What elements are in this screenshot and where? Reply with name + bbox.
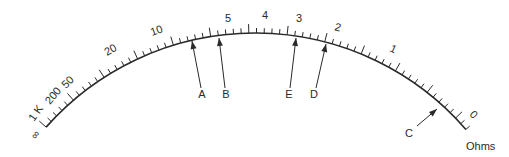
scale-tick <box>150 48 152 53</box>
scale-tick <box>361 46 364 54</box>
scale-tick <box>209 28 210 37</box>
pointer-label: E <box>285 88 292 100</box>
scale-tick <box>64 102 67 106</box>
scale-label: 20 <box>102 41 119 58</box>
scale-tick <box>389 63 391 67</box>
scale-label: 50 <box>59 73 76 90</box>
pointer-a: A <box>191 41 207 100</box>
pointer-c: C <box>405 109 437 139</box>
scale-label: 2 <box>333 20 342 33</box>
scale-label: 10 <box>149 22 165 37</box>
scale-tick <box>171 37 174 46</box>
scale-tick <box>195 35 196 40</box>
scale-label: 200 <box>42 85 63 107</box>
scale-label: 1 K <box>26 102 46 123</box>
scale-tick <box>395 63 400 71</box>
scale-tick <box>48 118 52 121</box>
ohmmeter-scale-diagram: ∞1 K200502010543210 ABEDC Ohms <box>0 0 509 157</box>
scale-tick <box>317 35 318 40</box>
scale-tick <box>382 59 384 64</box>
scale-tick <box>287 26 288 35</box>
scale-tick <box>68 93 74 100</box>
scale-tick <box>39 121 46 127</box>
scale-tick <box>122 61 124 65</box>
pointer-b: B <box>217 38 230 100</box>
scale-tick <box>115 65 118 69</box>
scale-tick <box>445 104 448 108</box>
scale-tick <box>456 112 462 118</box>
scale-tick <box>427 85 433 92</box>
scale-tick <box>332 39 333 44</box>
scale-tick <box>108 69 111 73</box>
scale-tick <box>310 34 311 39</box>
scale-tick <box>433 93 436 97</box>
scale-tick <box>82 87 85 91</box>
scale-label: 4 <box>262 9 268 21</box>
pointer-label: A <box>198 88 206 100</box>
scale-tick <box>95 77 98 81</box>
scale-tick <box>375 56 377 61</box>
scale-tick <box>218 31 219 36</box>
scale-label: 3 <box>296 12 302 24</box>
scale-tick <box>53 112 57 116</box>
scale-tick <box>421 84 424 88</box>
pointer-arrows: ABEDC <box>191 38 437 139</box>
scale-labels: ∞1 K200502010543210 <box>26 9 481 141</box>
scale-tick <box>187 36 188 41</box>
scale-tick <box>354 47 356 52</box>
scale-tick <box>347 44 349 49</box>
scale-tick <box>461 120 465 123</box>
scale-tick <box>202 33 203 38</box>
scale-tick <box>76 91 79 95</box>
scale-tick <box>466 126 470 129</box>
arrowhead-icon <box>292 38 298 46</box>
pointer-label: B <box>222 88 229 100</box>
scale-tick <box>157 45 159 50</box>
scale-label: 0 <box>468 108 481 121</box>
scale-label: ∞ <box>28 128 42 141</box>
pointer-e: E <box>285 38 298 100</box>
scale-tick <box>450 109 453 113</box>
scale-label: 5 <box>225 12 231 24</box>
scale-tick <box>402 71 405 75</box>
pointer-label: C <box>405 127 413 139</box>
scale-tick <box>325 33 327 42</box>
scale-tick <box>165 43 167 48</box>
scale-tick <box>129 58 131 63</box>
scale-tick <box>59 107 62 111</box>
scale-tick <box>415 79 418 83</box>
scale-tick <box>439 98 442 102</box>
scale-tick <box>134 51 138 59</box>
ohms-unit-label: Ohms <box>466 140 496 152</box>
pointer-d: D <box>310 44 327 100</box>
scale-tick <box>302 32 303 37</box>
arrowhead-icon <box>191 41 197 49</box>
scale-tick <box>340 41 342 46</box>
scale-tick <box>89 82 92 86</box>
scale-tick <box>225 30 226 35</box>
pointer-label: D <box>310 88 318 100</box>
scale-label: 1 <box>388 42 399 55</box>
scale-tick <box>295 31 296 36</box>
scale-tick <box>143 51 145 56</box>
scale-tick <box>99 70 104 78</box>
scale-tick <box>179 38 180 43</box>
arrowhead-icon <box>321 44 327 53</box>
scale-tick <box>408 75 411 79</box>
scale-tick <box>368 52 370 57</box>
arrowhead-icon <box>217 38 223 46</box>
